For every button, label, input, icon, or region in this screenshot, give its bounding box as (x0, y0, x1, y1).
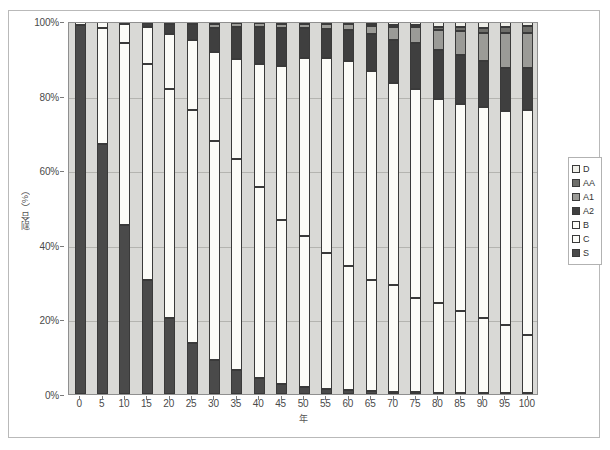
bar-stack (276, 23, 287, 394)
x-axis-tick-mark (393, 396, 394, 400)
bar-stack (164, 23, 175, 394)
x-axis-tick-mark (415, 396, 416, 400)
bar-stack (388, 23, 399, 394)
bar-segment-a2 (187, 24, 198, 40)
bar-segment-b (366, 71, 377, 280)
bar-segment-d (321, 22, 332, 23)
y-axis-tick-label: 0% (45, 390, 59, 401)
bar-stack (478, 23, 489, 394)
bar-segment-b (299, 58, 310, 236)
bar-segment-a1 (478, 33, 489, 61)
legend-label: B (583, 221, 589, 230)
bar-segment-a2 (343, 30, 354, 61)
bar-segment-a1 (388, 27, 399, 40)
x-axis-tick-mark (146, 396, 147, 400)
legend-swatch-icon (572, 221, 580, 229)
bar-segment-a1 (254, 23, 265, 27)
x-axis-tick-mark (281, 396, 282, 400)
legend-item-s[interactable]: S (572, 246, 598, 260)
bar-segment-s (119, 225, 130, 394)
bar-segment-a1 (299, 24, 310, 28)
bar-segment-c (522, 335, 533, 393)
bar-segment-a2 (142, 23, 153, 28)
bar-segment-aa (522, 26, 533, 33)
bar-segment-a1 (366, 26, 377, 35)
bar-stack (522, 23, 533, 394)
bar-segment-d (478, 22, 489, 28)
x-axis-tick-mark (370, 396, 371, 400)
bar-segment-s (388, 392, 399, 394)
y-axis-tick-label: 100% (34, 17, 59, 28)
x-axis-tick-mark (169, 396, 170, 400)
bar-stack (142, 23, 153, 394)
bar-segment-d (410, 22, 421, 25)
bar-segment-a2 (410, 43, 421, 89)
x-axis-tick-mark (348, 396, 349, 400)
legend-item-a2[interactable]: A2 (572, 204, 598, 218)
bar-segment-a1 (500, 33, 511, 68)
bar-segment-a1 (187, 22, 198, 24)
bar-segment-s (343, 390, 354, 394)
bar-stack (209, 23, 220, 394)
bar-segment-c (478, 318, 489, 393)
bar-stack (500, 23, 511, 394)
bar-segment-b (75, 22, 86, 25)
bar-segment-a1 (343, 24, 354, 30)
bar-segment-c (433, 303, 444, 393)
y-axis-tick-mark (60, 171, 64, 172)
bar-segment-a2 (388, 40, 399, 83)
bar-segment-c (500, 325, 511, 393)
bar-segment-a1 (142, 22, 153, 23)
legend-swatch-icon (572, 207, 580, 215)
bar-segment-a2 (433, 50, 444, 99)
bar-segment-a2 (478, 61, 489, 107)
legend-item-aa[interactable]: AA (572, 176, 598, 190)
bar-segment-a2 (500, 68, 511, 111)
bar-stack (366, 23, 377, 394)
bar-segment-b (119, 24, 130, 43)
bar-segment-b (455, 104, 466, 311)
bar-segment-b (388, 83, 399, 285)
x-axis-tick-mark (460, 396, 461, 400)
legend-item-c[interactable]: C (572, 232, 598, 246)
bar-segment-c (142, 64, 153, 279)
legend-item-b[interactable]: B (572, 218, 598, 232)
bar-segment-b (321, 58, 332, 252)
bar-stack (410, 23, 421, 394)
bar-segment-c (366, 280, 377, 391)
bar-stack (187, 23, 198, 394)
legend-swatch-icon (572, 235, 580, 243)
x-axis-tick-labels: 0510152025303540455055606570758085909510… (68, 396, 538, 412)
bar-stack (321, 23, 332, 394)
x-axis-tick-mark (79, 396, 80, 400)
y-axis-tick-mark (60, 246, 64, 247)
bar-segment-a1 (231, 23, 242, 27)
x-axis-tick-mark (527, 396, 528, 400)
bar-segment-aa (455, 27, 466, 31)
chart-screenshot: 割合（%） 0%20%40%60%80%100% 051015202530354… (0, 0, 610, 450)
bar-segment-b (478, 107, 489, 318)
bar-segment-c (276, 220, 287, 384)
bar-segment-aa (500, 27, 511, 33)
y-axis-tick-mark (60, 395, 64, 396)
bar-segment-b (209, 52, 220, 141)
bar-segment-d (231, 22, 242, 23)
x-axis-tick-mark (236, 396, 237, 400)
bar-stack (299, 23, 310, 394)
bar-segment-c (299, 236, 310, 387)
bar-segment-b (231, 59, 242, 159)
legend-item-d[interactable]: D (572, 162, 598, 176)
legend-label: D (583, 165, 590, 174)
bar-segment-b (276, 66, 287, 220)
bar-segment-c (410, 298, 421, 392)
bar-segment-a2 (209, 28, 220, 52)
legend-item-a1[interactable]: A1 (572, 190, 598, 204)
bar-segment-a1 (455, 31, 466, 56)
bar-segment-c (321, 253, 332, 389)
y-axis-tick-label: 80% (40, 91, 59, 102)
x-axis-tick-mark (303, 396, 304, 400)
bar-stack (97, 23, 108, 394)
x-axis-tick-mark (482, 396, 483, 400)
legend-label: A2 (583, 207, 594, 216)
bar-segment-a1 (209, 24, 220, 28)
